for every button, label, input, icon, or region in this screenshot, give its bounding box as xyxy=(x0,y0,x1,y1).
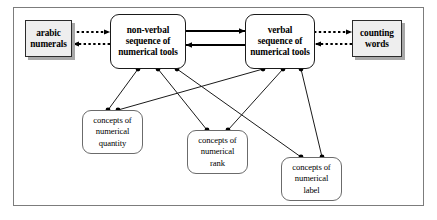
node-concepts-numerical-label-line-2: numerical xyxy=(295,173,328,184)
node-arabic-numerals-line-1: arabic xyxy=(36,28,61,39)
node-counting-words-line-2: words xyxy=(365,39,389,50)
node-verbal-sequence-line-1: verbal xyxy=(268,25,293,36)
node-verbal-sequence-line-3: numerical tools xyxy=(250,47,310,58)
node-non-verbal-sequence-line-3: numerical tools xyxy=(118,47,178,58)
node-concepts-numerical-quantity-line-2: numerical xyxy=(96,126,129,137)
node-concepts-numerical-rank: concepts of numerical rank xyxy=(187,130,248,174)
node-concepts-numerical-quantity-line-3: quantity xyxy=(99,138,126,149)
node-counting-words: counting words xyxy=(352,20,402,57)
node-concepts-numerical-label-line-3: label xyxy=(303,185,319,196)
node-non-verbal-sequence-line-2: sequence of xyxy=(126,36,171,47)
node-concepts-numerical-quantity-line-1: concepts of xyxy=(93,115,131,126)
node-non-verbal-sequence-line-1: non-verbal xyxy=(127,25,169,36)
node-counting-words-line-1: counting xyxy=(360,28,394,39)
node-arabic-numerals: arabic numerals xyxy=(25,20,72,57)
node-concepts-numerical-label: concepts of numerical label xyxy=(281,157,342,201)
node-concepts-numerical-rank-line-1: concepts of xyxy=(198,135,236,146)
node-verbal-sequence-line-2: sequence of xyxy=(258,36,303,47)
node-concepts-numerical-rank-line-2: numerical xyxy=(201,146,234,157)
node-arabic-numerals-line-2: numerals xyxy=(30,39,66,50)
diagram-root: arabic numerals non-verbal sequence of n… xyxy=(0,0,437,220)
node-non-verbal-sequence: non-verbal sequence of numerical tools xyxy=(110,14,186,69)
node-concepts-numerical-label-line-1: concepts of xyxy=(292,162,330,173)
node-concepts-numerical-rank-line-3: rank xyxy=(210,158,225,169)
node-verbal-sequence: verbal sequence of numerical tools xyxy=(245,14,315,69)
node-concepts-numerical-quantity: concepts of numerical quantity xyxy=(82,110,143,154)
